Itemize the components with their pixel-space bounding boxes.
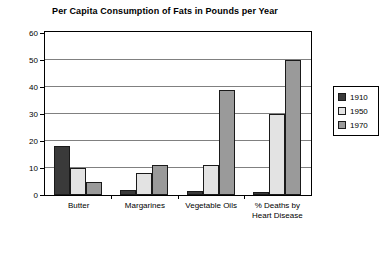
- chart-legend: 1910 1950 1970: [333, 86, 379, 136]
- chart-title: Per Capita Consumption of Fats in Pounds…: [0, 6, 330, 16]
- x-axis-tick: [111, 195, 112, 199]
- bar-1950-margarines: [136, 173, 152, 195]
- bar-chart: Per Capita Consumption of Fats in Pounds…: [0, 0, 389, 255]
- y-tick-label: 30: [0, 109, 38, 118]
- bar-1970-pct-deaths-by-heart-disease: [285, 60, 301, 195]
- bar-1910-margarines: [120, 190, 136, 195]
- gridline: [45, 59, 311, 60]
- plot-area: [44, 31, 312, 196]
- x-axis-label: Margarines: [112, 201, 178, 211]
- bar-1970-butter: [86, 182, 102, 196]
- y-tick-label: 0: [0, 190, 38, 199]
- x-axis-tick: [244, 195, 245, 199]
- legend-swatch-1950: [338, 107, 346, 115]
- legend-label-1970: 1970: [350, 121, 368, 130]
- bar-1910-vegetable-oils: [187, 191, 203, 195]
- x-axis-tick: [178, 195, 179, 199]
- bar-1910-butter: [54, 146, 70, 195]
- gridline: [45, 86, 311, 87]
- x-axis-label: Butter: [46, 201, 112, 211]
- y-tick-label: 20: [0, 136, 38, 145]
- bar-1970-vegetable-oils: [219, 90, 235, 195]
- bar-1970-margarines: [152, 165, 168, 195]
- legend-swatch-1910: [338, 93, 346, 101]
- x-axis-label: Vegetable Oils: [178, 201, 244, 211]
- legend-item-1950: 1950: [338, 104, 375, 118]
- legend-item-1970: 1970: [338, 118, 375, 132]
- x-axis-label-line2: Heart Disease: [252, 211, 303, 220]
- y-tick-label: 40: [0, 82, 38, 91]
- legend-label-1910: 1910: [350, 93, 368, 102]
- y-tick-label: 10: [0, 163, 38, 172]
- bar-1950-pct-deaths-by-heart-disease: [269, 114, 285, 195]
- y-tick-label: 50: [0, 55, 38, 64]
- legend-label-1950: 1950: [350, 107, 368, 116]
- legend-item-1910: 1910: [338, 90, 375, 104]
- bar-1950-butter: [70, 168, 86, 195]
- legend-swatch-1970: [338, 121, 346, 129]
- bar-1910-pct-deaths-by-heart-disease: [253, 192, 269, 195]
- bar-1950-vegetable-oils: [203, 165, 219, 195]
- x-axis-label: % Deaths byHeart Disease: [244, 201, 310, 221]
- y-tick-label: 60: [0, 28, 38, 37]
